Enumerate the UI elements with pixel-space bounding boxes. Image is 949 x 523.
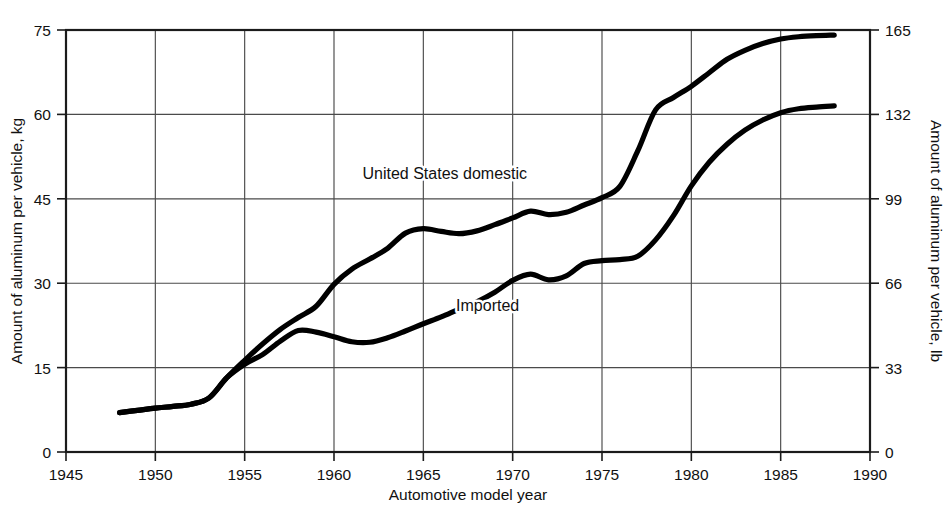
x-tick-label: 1975 [585,466,619,483]
y-tick-label-left: 15 [34,360,51,377]
y-axis-title-right: Amount of aluminum per vehicle, lb [928,120,945,362]
y-tick-label-left: 30 [34,275,52,292]
y-axis-left-tickmarks [57,30,66,452]
x-tick-label: 1960 [317,466,352,483]
x-tick-label: 1950 [138,466,173,483]
x-axis-tick-labels: 1945195019551960196519701975198019851990 [49,466,888,483]
x-tick-label: 1955 [227,466,261,483]
y-tick-label-left: 0 [42,444,51,461]
y-tick-label-right: 33 [885,360,902,377]
y-tick-label-left: 60 [34,106,52,123]
y-tick-label-right: 66 [885,275,902,292]
y-axis-right-tick-labels: 0336699132165 [885,22,911,461]
x-axis-title: Automotive model year [389,486,548,503]
aluminum-per-vehicle-chart: 1945195019551960196519701975198019851990… [0,0,949,523]
y-tick-label-right: 132 [885,106,911,123]
y-tick-label-right: 99 [885,191,902,208]
y-axis-right-tickmarks [870,30,879,452]
x-tick-label: 1990 [853,466,888,483]
x-tick-label: 1980 [674,466,709,483]
x-tick-label: 1965 [406,466,440,483]
plot-area-background [66,30,870,452]
series-annotation-united-states-domestic: United States domestic [363,165,528,182]
y-tick-label-right: 0 [885,444,894,461]
y-axis-left-tick-labels: 01530456075 [34,22,52,461]
series-annotation-imported: Imported [456,297,519,314]
y-tick-label-right: 165 [885,22,911,39]
x-tick-label: 1985 [763,466,797,483]
y-tick-label-left: 45 [34,191,51,208]
x-tick-label: 1970 [495,466,530,483]
x-axis-tickmarks [66,452,870,461]
x-tick-label: 1945 [49,466,83,483]
y-axis-title-left: Amount of aluminum per vehicle, kg [8,118,25,364]
y-tick-label-left: 75 [34,22,51,39]
chart-canvas: 1945195019551960196519701975198019851990… [0,0,949,523]
